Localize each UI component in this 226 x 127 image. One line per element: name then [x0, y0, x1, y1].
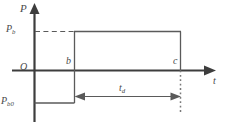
origin-label: O [20, 62, 27, 72]
point-c-label: c [173, 56, 177, 66]
td-dimension-arrow [75, 93, 182, 101]
y-axis-label: P [20, 3, 27, 14]
td-left-arrowhead-icon [75, 93, 86, 101]
td-duration-label: td [119, 83, 125, 93]
y-axis-group [30, 3, 40, 122]
diagram-canvas [0, 0, 226, 127]
point-b-label: b [66, 56, 71, 66]
pb-level-subscript: b [12, 28, 15, 35]
x-axis-arrowhead-icon [204, 66, 216, 76]
x-axis-group [12, 66, 216, 76]
pb0-level-subscript: b0 [7, 100, 14, 107]
pulse-waveform [74, 32, 181, 104]
pb0-level-label: Pb0 [1, 96, 14, 106]
pb-level-label: Pb [6, 24, 16, 34]
pressure-time-diagram: P t O Pb Pb0 b c td [0, 0, 226, 127]
td-duration-subscript: d [122, 87, 125, 94]
td-right-arrowhead-icon [171, 93, 182, 101]
y-axis-arrowhead-icon [30, 3, 40, 14]
x-axis-label: t [213, 76, 216, 86]
